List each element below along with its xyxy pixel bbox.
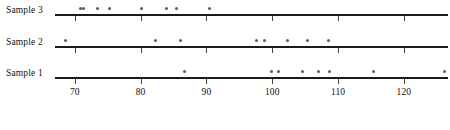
data-point — [165, 7, 168, 10]
data-point — [255, 39, 258, 42]
data-point — [183, 70, 186, 73]
x-tick-120 — [404, 16, 405, 21]
data-point — [443, 70, 446, 73]
x-tick-70 — [75, 48, 76, 53]
data-point — [372, 70, 375, 73]
data-point — [263, 39, 266, 42]
x-tick-110 — [338, 79, 339, 84]
x-tick-label-120: 120 — [397, 87, 412, 97]
x-tick-label-70: 70 — [70, 87, 80, 97]
row-label-sample-2: Sample 2 — [6, 37, 43, 47]
data-point — [108, 7, 111, 10]
x-tick-label-110: 110 — [331, 87, 345, 97]
x-tick-90 — [206, 16, 207, 21]
data-point — [96, 7, 99, 10]
x-tick-100 — [272, 16, 273, 21]
x-tick-120 — [404, 79, 405, 84]
x-tick-110 — [338, 48, 339, 53]
x-tick-70 — [75, 79, 76, 84]
data-point — [328, 70, 331, 73]
axis-line-sample-3 — [55, 14, 448, 16]
data-point — [306, 39, 309, 42]
data-point — [64, 39, 67, 42]
x-tick-80 — [141, 48, 142, 53]
data-point — [82, 7, 85, 10]
data-point — [277, 70, 280, 73]
x-tick-70 — [75, 16, 76, 21]
data-point — [270, 70, 273, 73]
data-point — [179, 39, 182, 42]
data-point — [140, 7, 143, 10]
data-point — [154, 39, 157, 42]
x-tick-label-80: 80 — [136, 87, 146, 97]
x-tick-110 — [338, 16, 339, 21]
data-point — [301, 70, 304, 73]
x-tick-label-100: 100 — [265, 87, 280, 97]
axis-line-sample-2 — [55, 46, 448, 48]
data-point — [327, 39, 330, 42]
x-tick-100 — [272, 48, 273, 53]
x-tick-80 — [141, 16, 142, 21]
row-label-sample-1: Sample 1 — [6, 68, 43, 78]
x-tick-90 — [206, 79, 207, 84]
data-point — [175, 7, 178, 10]
x-tick-120 — [404, 48, 405, 53]
x-tick-80 — [141, 79, 142, 84]
data-point — [317, 70, 320, 73]
data-point — [286, 39, 289, 42]
axis-line-sample-1 — [55, 77, 448, 79]
x-tick-90 — [206, 48, 207, 53]
row-label-sample-3: Sample 3 — [6, 5, 43, 15]
x-tick-label-90: 90 — [202, 87, 212, 97]
strip-plot-figure: Sample 3 Sample 2 Sample 1 7080901001101… — [0, 0, 450, 130]
x-tick-100 — [272, 79, 273, 84]
data-point — [208, 7, 211, 10]
